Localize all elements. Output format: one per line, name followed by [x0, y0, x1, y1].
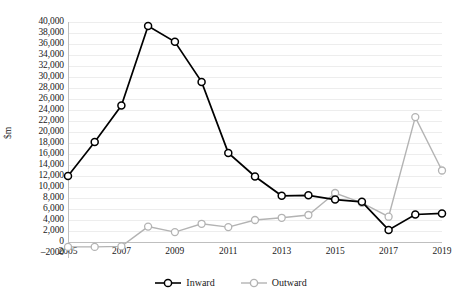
data-point-marker: [385, 213, 392, 220]
chart-legend: Inward Outward: [0, 272, 462, 294]
series-line: [68, 26, 442, 230]
data-point-marker: [252, 217, 259, 224]
data-point-marker: [225, 224, 232, 231]
data-point-marker: [65, 173, 72, 180]
data-point-marker: [225, 149, 232, 156]
legend-label-outward: Outward: [272, 278, 307, 288]
data-point-marker: [412, 114, 419, 121]
legend-marker-inward: [155, 277, 181, 289]
legend-item-inward: Inward: [155, 277, 214, 289]
data-point-marker: [118, 102, 125, 109]
data-point-marker: [65, 243, 72, 250]
data-point-marker: [358, 198, 365, 205]
data-point-marker: [252, 173, 259, 180]
data-point-marker: [198, 78, 205, 85]
data-point-marker: [385, 226, 392, 233]
data-point-marker: [145, 22, 152, 29]
legend-item-outward: Outward: [241, 277, 307, 289]
data-point-marker: [118, 243, 125, 250]
data-point-marker: [171, 229, 178, 236]
data-point-marker: [198, 220, 205, 227]
data-point-marker: [91, 243, 98, 250]
series-inward: [65, 22, 446, 233]
data-point-marker: [171, 38, 178, 45]
data-point-marker: [439, 167, 446, 174]
data-series-layer: [0, 0, 462, 299]
data-point-marker: [305, 192, 312, 199]
data-point-marker: [278, 214, 285, 221]
line-chart: $m 40,00038,00036,00034,00032,00030,0002…: [0, 0, 462, 299]
data-point-marker: [91, 138, 98, 145]
data-point-marker: [305, 212, 312, 219]
data-point-marker: [278, 192, 285, 199]
data-point-marker: [439, 210, 446, 217]
legend-label-inward: Inward: [186, 278, 214, 288]
legend-marker-outward: [241, 277, 267, 289]
data-point-marker: [332, 196, 339, 203]
data-point-marker: [412, 211, 419, 218]
data-point-marker: [145, 223, 152, 230]
